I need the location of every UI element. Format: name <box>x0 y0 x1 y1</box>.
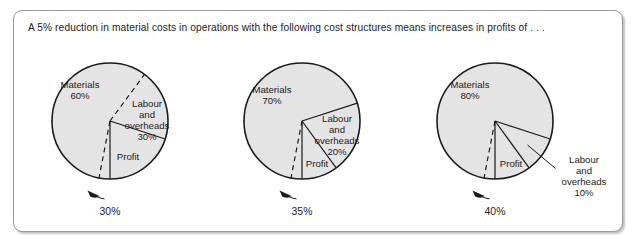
figure-root: A 5% reduction in material costs in oper… <box>0 0 640 245</box>
pie-1-arrow-icon <box>88 191 105 199</box>
pie-2-profit-label: Profit <box>306 158 329 169</box>
pie-chart-canvas: Materials 60% Labour and overheads 30% P… <box>0 0 640 245</box>
pie-3-result-label: 40% <box>485 206 506 217</box>
pie-3-labour-label-line1: Labour <box>569 154 600 165</box>
pie-2-result-label: 35% <box>292 206 313 217</box>
pie-1-labour-label-line3: overheads <box>125 120 170 131</box>
pie-2-labour-label-line3: overheads <box>315 135 360 146</box>
pie-1-profit-label: Profit <box>117 151 140 162</box>
pie-3-labour-value: 10% <box>574 187 594 198</box>
pie-1-result-label: 30% <box>100 206 121 217</box>
pie-2-labour-label-line1: Labour <box>322 113 353 124</box>
pie-chart-2: Materials 70% Labour and overheads 20% P… <box>244 63 360 217</box>
pie-3-materials-value: 80% <box>460 90 480 101</box>
pie-2-materials-value: 70% <box>262 95 282 106</box>
pie-chart-1: Materials 60% Labour and overheads 30% P… <box>52 63 170 217</box>
pie-3-labour-label-line2: and <box>576 165 592 176</box>
pie-3-materials-label: Materials <box>451 79 490 90</box>
pie-3-profit-label: Profit <box>500 158 523 169</box>
pie-1-materials-label: Materials <box>61 79 100 90</box>
pie-chart-3: Materials 80% Profit Labour and overhead… <box>437 63 607 217</box>
pie-2-labour-label-line2: and <box>329 124 345 135</box>
pie-1-labour-label-line1: Labour <box>132 98 163 109</box>
pie-1-labour-label-line2: and <box>139 109 155 120</box>
pie-3-arrow-icon <box>473 191 490 199</box>
pie-2-arrow-icon <box>280 191 297 199</box>
pie-1-materials-value: 60% <box>70 90 90 101</box>
pie-1-labour-value: 30% <box>137 131 157 142</box>
pie-2-materials-label: Materials <box>253 84 292 95</box>
pie-3-labour-label-line3: overheads <box>562 176 607 187</box>
pie-2-labour-value: 20% <box>327 146 347 157</box>
